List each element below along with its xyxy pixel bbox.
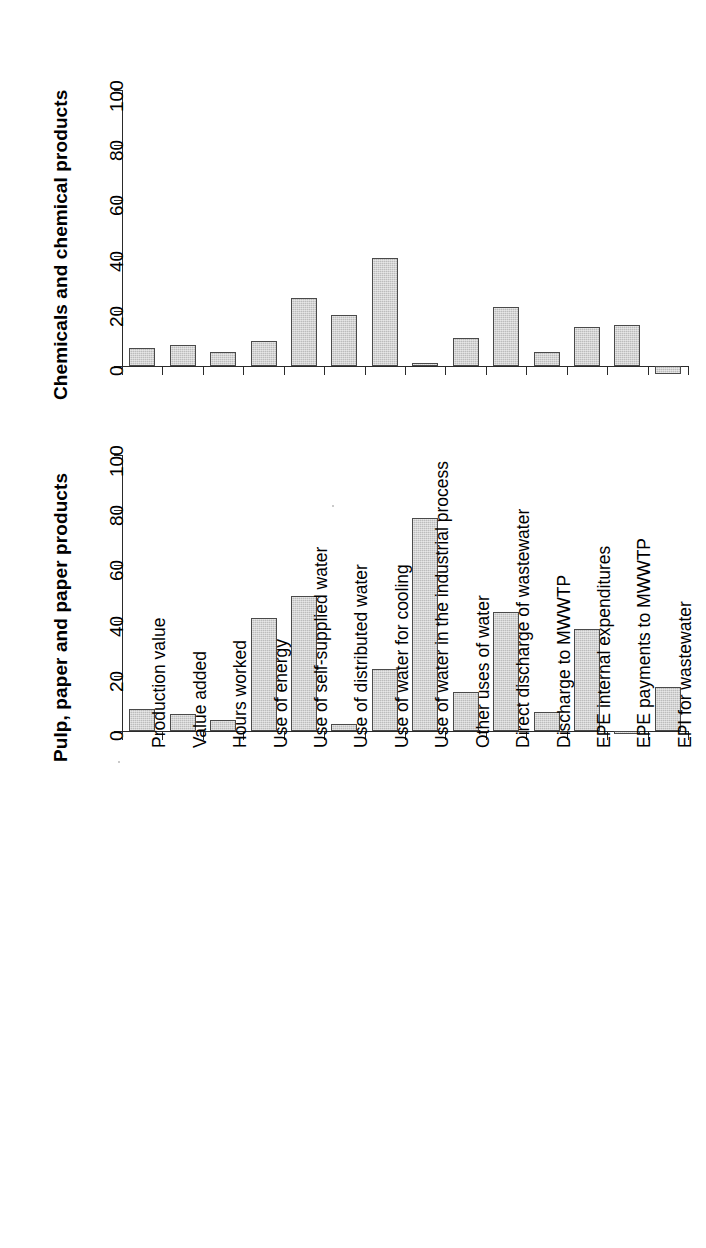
category-tick: [445, 366, 446, 375]
category-tick: [122, 366, 123, 375]
y-tick-label: 60: [106, 195, 128, 216]
y-tick-label: 80: [106, 505, 128, 526]
bar: [655, 366, 681, 374]
y-tick-label: 80: [106, 140, 128, 161]
bar: [170, 345, 196, 366]
category-label: Other uses of water: [473, 595, 494, 748]
category-tick: [567, 366, 568, 375]
category-label: Use of energy: [271, 639, 292, 748]
category-label: EPI for wastewater: [675, 601, 696, 748]
bar: [493, 307, 519, 366]
category-tick: [486, 366, 487, 375]
bar: [453, 338, 479, 366]
category-tick: [162, 366, 163, 375]
category-label: Value added: [190, 651, 211, 748]
category-label: Use of distributed water: [351, 564, 372, 748]
category-tick: [324, 366, 325, 375]
category-label: Use of self-supplied water: [311, 547, 332, 748]
y-tick-label: 100: [106, 445, 128, 477]
category-label: EPE payments to MWWTP: [634, 538, 655, 748]
category-label: Use of water for cooling: [392, 564, 413, 748]
bar: [210, 352, 236, 366]
category-label: Use of water in the industrial process: [432, 461, 453, 748]
category-label: EPE internal expenditures: [594, 546, 615, 748]
bar: [331, 315, 357, 366]
y-tick-label: 0: [106, 730, 128, 741]
category-label: Discharge to MWWTP: [554, 575, 575, 748]
panel-title: Pulp, paper and paper products: [50, 473, 72, 762]
y-tick-label: 0: [106, 365, 128, 376]
category-tick: [526, 366, 527, 375]
y-tick-label: 100: [106, 80, 128, 112]
category-tick: [122, 731, 123, 740]
scan-speck: [332, 505, 334, 507]
bar: [251, 341, 277, 366]
panel-title: Chemicals and chemical products: [50, 90, 72, 400]
bar: [412, 363, 438, 366]
bar: [614, 325, 640, 366]
category-label: Hours worked: [230, 640, 251, 748]
category-tick: [243, 366, 244, 375]
bar: [129, 348, 155, 366]
bar: [534, 352, 560, 366]
category-label: Production value: [149, 618, 170, 748]
category-tick: [688, 366, 689, 375]
y-tick-label: 20: [106, 306, 128, 327]
category-tick: [648, 366, 649, 375]
category-label: Direct discharge of wastewater: [513, 509, 534, 748]
chart-page: Chemicals and chemical products020406080…: [0, 0, 706, 1248]
bar: [372, 258, 398, 366]
bar: [574, 327, 600, 366]
category-tick: [607, 366, 608, 375]
y-tick-label: 40: [106, 250, 128, 271]
y-tick-label: 20: [106, 671, 128, 692]
category-tick: [405, 366, 406, 375]
category-tick: [365, 366, 366, 375]
y-tick-label: 40: [106, 615, 128, 636]
y-tick-label: 60: [106, 560, 128, 581]
category-tick: [203, 366, 204, 375]
bar: [291, 298, 317, 366]
category-tick: [284, 366, 285, 375]
scan-speck: [118, 761, 120, 763]
